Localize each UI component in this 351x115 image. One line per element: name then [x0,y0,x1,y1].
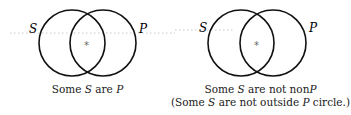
caption-text: are not non [245,83,310,95]
caption-line-1: Some S are not nonP [170,83,351,96]
label-s: S [29,22,37,36]
caption-text: Some [52,83,85,95]
term-p: P [309,83,316,95]
circle-s [39,10,105,76]
term-p: P [116,83,123,95]
circle-p [70,10,136,76]
circle-s [208,10,274,76]
label-p: P [308,21,318,35]
caption-text: circle.) [310,96,350,108]
circle-p [240,10,306,76]
label-p: P [138,22,148,36]
diagram-some-s-are-p: S P * [29,10,148,76]
term-s: S [238,83,245,95]
existence-mark: * [84,40,89,51]
diagram-some-s-are-not-nonp: S P * [199,10,318,76]
caption-line-2: (Some S are not outside P circle.) [170,96,351,109]
caption-text: (Some [171,96,208,108]
caption-text: are [92,83,116,95]
caption-some-s-are-p: Some S are P [0,83,175,96]
term-p: P [302,96,309,108]
label-s: S [199,21,207,35]
caption-text: are not outside [215,96,302,108]
existence-mark: * [254,40,259,51]
term-s: S [85,83,92,95]
caption-text: Some [205,83,238,95]
caption-some-s-are-not-nonp: Some S are not nonP (Some S are not outs… [170,83,351,109]
